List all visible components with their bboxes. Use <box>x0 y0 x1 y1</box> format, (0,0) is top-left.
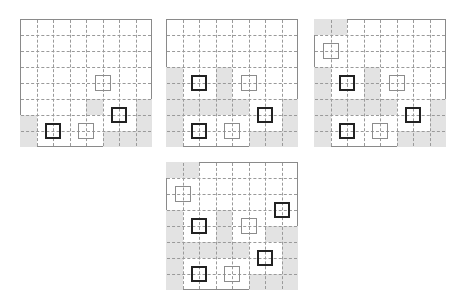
shaded-cell <box>282 131 299 147</box>
shaded-cell <box>430 131 447 147</box>
grid-line-horizontal <box>167 178 297 179</box>
shaded-cell <box>314 67 331 83</box>
shaded-cell <box>183 242 200 258</box>
black-square-marker <box>45 123 61 139</box>
black-square-marker <box>339 75 355 91</box>
gray-square-marker <box>224 266 240 282</box>
shaded-cell <box>166 115 183 131</box>
black-square-marker <box>257 107 273 123</box>
grid-line-horizontal <box>167 99 297 100</box>
shaded-cell <box>136 115 153 131</box>
grid-line-horizontal <box>167 226 297 227</box>
grid-4 <box>166 162 298 290</box>
shaded-cell <box>314 83 331 99</box>
gray-square-marker <box>372 123 388 139</box>
shaded-cell <box>331 99 348 115</box>
shaded-cell <box>364 83 381 99</box>
shaded-cell <box>199 99 216 115</box>
black-square-marker <box>274 202 290 218</box>
shaded-cell <box>282 242 299 258</box>
gray-square-marker <box>175 186 191 202</box>
grid-line-horizontal <box>21 67 151 68</box>
shaded-cell <box>413 131 430 147</box>
grid-line-horizontal <box>21 99 151 100</box>
grid-line-horizontal <box>21 83 151 84</box>
black-square-marker <box>339 123 355 139</box>
shaded-cell <box>216 242 233 258</box>
shaded-cell <box>249 131 266 147</box>
shaded-cell <box>249 274 266 290</box>
shaded-cell <box>136 99 153 115</box>
shaded-cell <box>166 131 183 147</box>
grid-3 <box>314 19 446 147</box>
shaded-cell <box>103 131 120 147</box>
black-square-marker <box>191 75 207 91</box>
gray-square-marker <box>224 123 240 139</box>
shaded-cell <box>282 258 299 274</box>
shaded-cell <box>20 115 37 131</box>
grid-line-horizontal <box>315 83 445 84</box>
shaded-cell <box>265 274 282 290</box>
shaded-cell <box>430 99 447 115</box>
shaded-cell <box>183 99 200 115</box>
shaded-cell <box>314 115 331 131</box>
shaded-cell <box>166 83 183 99</box>
shaded-cell <box>216 83 233 99</box>
grid-line-horizontal <box>315 35 445 36</box>
shaded-cell <box>166 226 183 242</box>
shaded-cell <box>166 162 183 178</box>
shaded-cell <box>380 99 397 115</box>
shaded-cell <box>86 99 103 115</box>
black-square-marker <box>191 123 207 139</box>
shaded-cell <box>166 67 183 83</box>
grid-2 <box>166 19 298 147</box>
shaded-cell <box>430 115 447 131</box>
grid-line-horizontal <box>315 67 445 68</box>
grid-line-horizontal <box>21 51 151 52</box>
shaded-cell <box>216 210 233 226</box>
shaded-cell <box>136 131 153 147</box>
shaded-cell <box>397 131 414 147</box>
shaded-cell <box>216 99 233 115</box>
grid-line-horizontal <box>167 115 297 116</box>
gray-square-marker <box>95 75 111 91</box>
shaded-cell <box>282 115 299 131</box>
grid-line-horizontal <box>167 242 297 243</box>
gray-square-marker <box>323 43 339 59</box>
shaded-cell <box>265 226 282 242</box>
shaded-cell <box>216 67 233 83</box>
shaded-cell <box>166 274 183 290</box>
grid-line-horizontal <box>315 99 445 100</box>
grid-line-horizontal <box>21 35 151 36</box>
shaded-cell <box>166 258 183 274</box>
shaded-cell <box>183 162 200 178</box>
shaded-cell <box>166 242 183 258</box>
shaded-cell <box>216 226 233 242</box>
gray-square-marker <box>389 75 405 91</box>
shaded-cell <box>364 67 381 83</box>
black-square-marker <box>257 250 273 266</box>
shaded-cell <box>282 274 299 290</box>
shaded-cell <box>364 99 381 115</box>
grid-line-horizontal <box>167 51 297 52</box>
shaded-cell <box>119 131 136 147</box>
shaded-cell <box>199 242 216 258</box>
shaded-cell <box>314 99 331 115</box>
shaded-cell <box>282 226 299 242</box>
black-square-marker <box>111 107 127 123</box>
shaded-cell <box>232 242 249 258</box>
grid-line-horizontal <box>21 115 151 116</box>
grid-1 <box>20 19 152 147</box>
gray-square-marker <box>241 218 257 234</box>
grid-line-horizontal <box>167 258 297 259</box>
shaded-cell <box>166 210 183 226</box>
shaded-cell <box>314 131 331 147</box>
shaded-cell <box>232 99 249 115</box>
shaded-cell <box>331 19 348 35</box>
black-square-marker <box>191 266 207 282</box>
shaded-cell <box>347 99 364 115</box>
shaded-cell <box>166 99 183 115</box>
grid-line-horizontal <box>315 115 445 116</box>
shaded-cell <box>314 19 331 35</box>
grid-line-horizontal <box>167 67 297 68</box>
